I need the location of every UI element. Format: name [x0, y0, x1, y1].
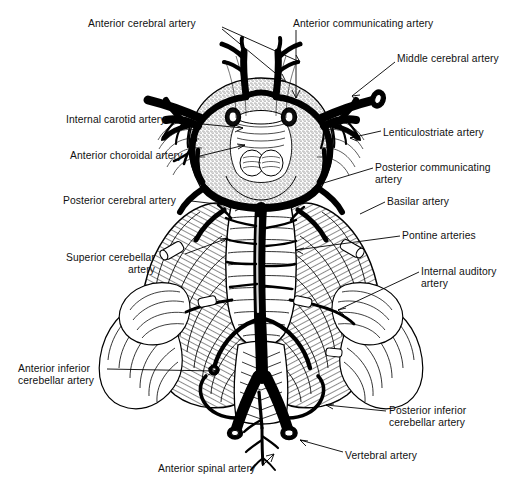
label-text: Internal auditory: [421, 266, 497, 277]
basilar-artery-vessel: [259, 208, 262, 378]
label-pontine-arteries: Pontine arteries: [402, 230, 476, 242]
label-vertebral-artery: Vertebral artery: [345, 450, 417, 462]
label-text: Lenticulostriate artery: [383, 127, 484, 138]
label-anterior-communicating-artery: Anterior communicating artery: [293, 18, 433, 30]
label-anterior-spinal-artery: Anterior spinal artery: [158, 463, 255, 475]
vertebral-artery-cut-end-left: [228, 427, 243, 439]
label-basilar-artery: Basilar artery: [387, 196, 449, 208]
anatomical-figure: Anterior cerebral arteryAnterior communi…: [0, 0, 522, 499]
basal-forebrain: [189, 78, 333, 208]
label-text: Posterior communicating: [375, 162, 491, 173]
label-posterior-cerebral-artery: Posterior cerebral artery: [63, 195, 176, 207]
label-text-line2: artery: [375, 174, 402, 185]
label-anterior-choroidal-artery: Anterior choroidal artery: [70, 150, 182, 162]
label-middle-cerebral-artery: Middle cerebral artery: [397, 53, 499, 65]
label-anterior-inferior-cerebellar-artery: Anterior inferiorcerebellar artery: [18, 363, 94, 388]
label-text: Basilar artery: [387, 196, 449, 207]
label-superior-cerebellar-artery: Superior cerebellarartery: [66, 252, 155, 277]
label-text-line2: artery: [66, 264, 155, 276]
label-internal-carotid-artery: Internal carotid artery: [66, 114, 166, 126]
label-posterior-communicating-artery: Posterior communicatingartery: [375, 162, 491, 187]
label-lenticulostriate-artery: Lenticulostriate artery: [383, 127, 484, 139]
label-text-line2: artery: [421, 278, 448, 289]
label-posterior-inferior-cerebellar-artery: Posterior inferiorcerebellar artery: [389, 405, 466, 430]
label-text-line2: cerebellar artery: [18, 375, 94, 386]
label-text: Anterior cerebral artery: [88, 18, 196, 29]
label-text: Superior cerebellar: [66, 252, 155, 263]
label-internal-auditory-artery: Internal auditoryartery: [421, 266, 497, 291]
label-text: Posterior cerebral artery: [63, 195, 176, 206]
label-text: Anterior inferior: [18, 363, 90, 374]
label-text-line2: cerebellar artery: [389, 417, 465, 428]
label-text: Anterior communicating artery: [293, 18, 433, 29]
label-text: Vertebral artery: [345, 450, 417, 461]
label-anterior-cerebral-artery: Anterior cerebral artery: [88, 18, 196, 30]
label-text: Pontine arteries: [402, 230, 476, 241]
anterior-communicating-artery-vessel: [248, 93, 274, 95]
label-text: Middle cerebral artery: [397, 53, 499, 64]
label-text: Anterior choroidal artery: [70, 150, 182, 161]
vertebral-artery-cut-end-right: [281, 427, 297, 440]
label-text: Anterior spinal artery: [158, 463, 255, 474]
label-text: Internal carotid artery: [66, 114, 166, 125]
label-text: Posterior inferior: [389, 405, 466, 416]
